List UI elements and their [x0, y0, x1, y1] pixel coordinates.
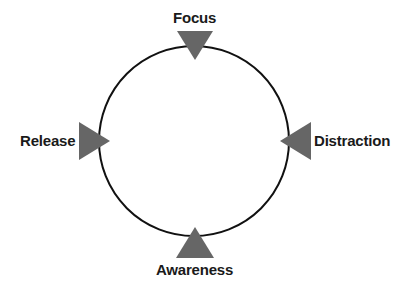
- stage-label-release: Release: [20, 132, 75, 149]
- stage-label-distraction: Distraction: [314, 132, 390, 149]
- arrow-awareness-icon: [176, 227, 214, 258]
- stage-label-awareness: Awareness: [156, 261, 233, 278]
- arrow-distraction-icon: [280, 122, 311, 160]
- arrow-release-icon: [79, 122, 110, 160]
- arrow-focus-icon: [177, 31, 213, 60]
- cycle-circle: [99, 46, 289, 236]
- stage-label-focus: Focus: [173, 9, 216, 26]
